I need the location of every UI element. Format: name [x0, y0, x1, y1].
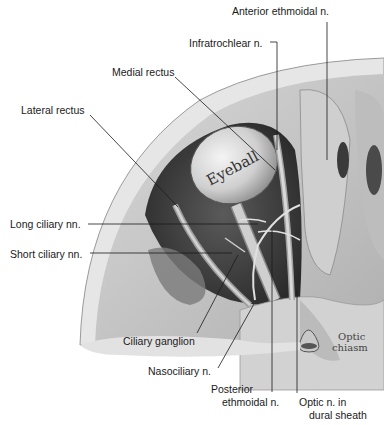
- label-anterior-ethmoidal: Anterior ethmoidal n.: [232, 5, 329, 17]
- label-nasociliary: Nasociliary n.: [148, 365, 211, 377]
- label-ciliary-ganglion: Ciliary ganglion: [123, 335, 195, 347]
- label-long-ciliary: Long ciliary nn.: [10, 218, 81, 230]
- orbit-illustration: Optic chiasm Eyeball: [0, 0, 384, 425]
- label-infratrochlear: Infratrochlear n.: [189, 37, 263, 49]
- label-optic-sheath-line1: Optic n. in: [299, 396, 346, 408]
- label-short-ciliary: Short ciliary nn.: [10, 248, 82, 260]
- label-posterior-ethmoidal-line1: Posterior: [211, 383, 253, 395]
- label-medial-rectus: Medial rectus: [112, 66, 174, 78]
- label-lateral-rectus: Lateral rectus: [21, 104, 85, 116]
- optic-chiasm-label-2: chiasm: [332, 342, 368, 353]
- optic-chiasm-label-1: Optic: [338, 331, 366, 342]
- label-optic-sheath-line2: dural sheath: [309, 409, 367, 421]
- anatomy-figure: Optic chiasm Eyeball: [0, 0, 384, 425]
- label-posterior-ethmoidal-line2: ethmoidal n.: [222, 396, 279, 408]
